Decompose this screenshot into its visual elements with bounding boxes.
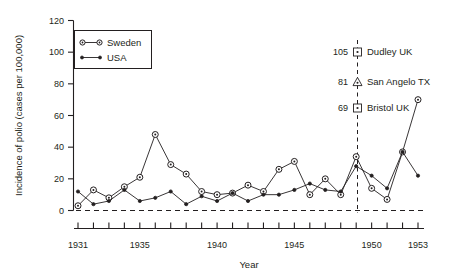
y-tick-label: 0 (59, 206, 64, 216)
x-tick-label: 1935 (130, 240, 150, 250)
data-point-center (77, 205, 79, 207)
x-axis-title: Year (239, 259, 258, 270)
y-axis-title: Incidence of polio (cases per 100,000) (13, 35, 24, 196)
data-point (138, 199, 141, 202)
x-axis-ticks (78, 223, 418, 229)
x-tick-label: 1940 (207, 240, 227, 250)
annotation-label: Bristol UK (367, 102, 410, 113)
legend-marker-usa-left (81, 56, 84, 59)
x-axis-tick-labels: 193119351940194519501953 (68, 240, 428, 250)
triangle-marker-center-icon (357, 82, 359, 84)
data-point-center (371, 187, 373, 189)
data-point (324, 188, 327, 191)
data-point (215, 199, 218, 202)
data-point (293, 188, 296, 191)
y-axis-tick-labels: 020406080100120 (49, 16, 64, 216)
x-tick-label: 1953 (408, 240, 428, 250)
data-point (200, 195, 203, 198)
legend-marker-sweden-left-dot (82, 42, 84, 44)
annotation-label: San Angelo TX (367, 76, 431, 87)
annotation-value: 105 (333, 47, 348, 57)
data-point (277, 193, 280, 196)
x-axis-group: 193119351940194519501953 Year (68, 223, 428, 271)
data-point-center (278, 168, 280, 170)
data-point-center (185, 173, 187, 175)
data-point (262, 193, 265, 196)
data-point (92, 203, 95, 206)
data-point (385, 187, 388, 190)
legend-label-sweden: Sweden (107, 37, 141, 48)
x-tick-label: 1931 (68, 240, 88, 250)
data-point (169, 190, 172, 193)
data-point (308, 182, 311, 185)
series-line-sweden (78, 100, 418, 206)
data-point (370, 174, 373, 177)
data-point (416, 174, 419, 177)
data-point-center (340, 194, 342, 196)
series-usa (76, 150, 419, 205)
data-point (154, 196, 157, 199)
legend-label-usa: USA (107, 52, 127, 63)
data-point-center (324, 178, 326, 180)
y-axis-ticks (68, 21, 74, 211)
data-point-center (216, 194, 218, 196)
data-point (123, 188, 126, 191)
annotation-dudley-uk: 105Dudley UK (333, 46, 413, 57)
data-point-center (170, 164, 172, 166)
data-point (246, 199, 249, 202)
data-point-center (123, 186, 125, 188)
y-tick-label: 60 (54, 111, 64, 121)
data-point-center (417, 99, 419, 101)
data-point (76, 190, 79, 193)
y-axis-group: 020406080100120 Incidence of polio (case… (13, 16, 74, 216)
annotation-san-angelo-tx: 81San Angelo TX (338, 76, 431, 87)
y-tick-label: 40 (54, 142, 64, 152)
polio-incidence-chart: 020406080100120 Incidence of polio (case… (0, 0, 465, 274)
annotation-value: 81 (338, 77, 348, 87)
data-point-center (262, 191, 264, 193)
data-point-center (92, 189, 94, 191)
data-point-center (293, 160, 295, 162)
data-point-center (139, 176, 141, 178)
y-tick-label: 100 (49, 47, 64, 57)
square-marker-center-icon (356, 51, 358, 53)
data-point-center (154, 134, 156, 136)
square-marker-center-icon (356, 107, 358, 109)
legend: Sweden USA (75, 31, 152, 69)
data-point (339, 190, 342, 193)
annotation-bristol-uk: 69Bristol UK (338, 102, 410, 113)
data-point (107, 199, 110, 202)
data-point-center (201, 191, 203, 193)
series-layer (75, 97, 421, 209)
legend-marker-sweden-right-dot (99, 42, 101, 44)
x-tick-label: 1950 (362, 240, 382, 250)
y-tick-label: 80 (54, 79, 64, 89)
data-point-center (108, 197, 110, 199)
data-point-center (355, 156, 357, 158)
x-tick-label: 1945 (284, 240, 304, 250)
legend-marker-usa-right (99, 56, 102, 59)
data-point (355, 165, 358, 168)
triangle-marker-icon (353, 77, 362, 85)
data-point-center (247, 184, 249, 186)
annotations-layer: 105Dudley UK81San Angelo TX69Bristol UK (333, 46, 431, 113)
data-point (401, 150, 404, 153)
annotation-label: Dudley UK (367, 46, 413, 57)
y-tick-label: 120 (49, 16, 64, 26)
data-point (185, 203, 188, 206)
chart-canvas: 020406080100120 Incidence of polio (case… (0, 0, 465, 274)
y-tick-label: 20 (54, 174, 64, 184)
data-point-center (386, 198, 388, 200)
annotation-value: 69 (338, 103, 348, 113)
data-point (231, 191, 234, 194)
data-point-center (309, 194, 311, 196)
